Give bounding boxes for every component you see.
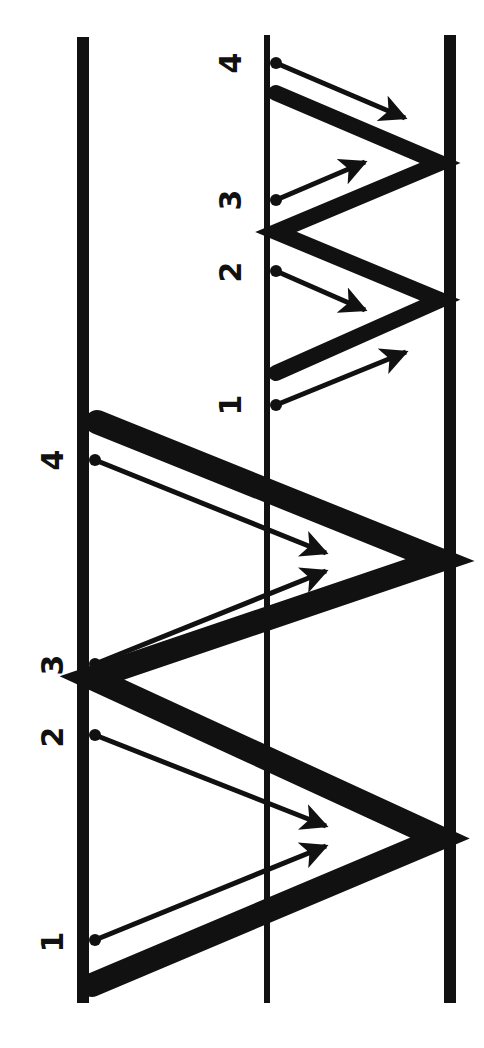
small-label-3: 3 xyxy=(213,190,248,211)
small-zigzag-line xyxy=(276,93,440,373)
small-zigzag-path xyxy=(276,93,440,373)
small-label-4: 4 xyxy=(213,53,248,74)
arrow-icon xyxy=(276,271,365,310)
large-label-1: 1 xyxy=(35,932,70,953)
small-arrow-2 xyxy=(270,265,365,310)
small-label-1: 1 xyxy=(213,395,248,416)
large-label-3: 3 xyxy=(35,655,70,676)
small-diagram-labels: 1234 xyxy=(213,53,248,416)
wave-path-diagram: 1234 1234 xyxy=(0,0,484,1048)
small-arrow-4 xyxy=(270,57,405,118)
large-label-4: 4 xyxy=(35,450,70,471)
large-label-2: 2 xyxy=(35,727,70,748)
small-label-2: 2 xyxy=(213,262,248,283)
large-diagram-labels: 1234 xyxy=(35,450,70,953)
